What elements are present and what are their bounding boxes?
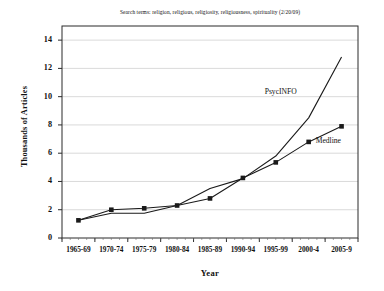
x-axis-title: Year [62,268,358,278]
y-tick-label: 10 [30,92,52,101]
y-axis-ticks [58,40,62,238]
series-markers [76,124,344,223]
y-tick-label: 6 [30,148,52,157]
y-tick-label: 2 [30,205,52,214]
series-label-medline: Medline [316,136,341,145]
series-label-psycinfo: PsycINFO [265,87,297,96]
y-tick-label: 8 [30,120,52,129]
axis-frame [62,26,358,238]
y-tick-label: 0 [30,233,52,242]
y-tick-label: 4 [30,176,52,185]
y-tick-label: 12 [30,63,52,72]
x-axis-ticks [62,238,358,242]
gridlines [62,40,358,210]
x-tick-label: 2005-9 [320,245,364,254]
chart-container: Search terms: religion, religious, relig… [0,0,384,291]
y-tick-label: 14 [30,35,52,44]
series-lines [78,57,341,220]
